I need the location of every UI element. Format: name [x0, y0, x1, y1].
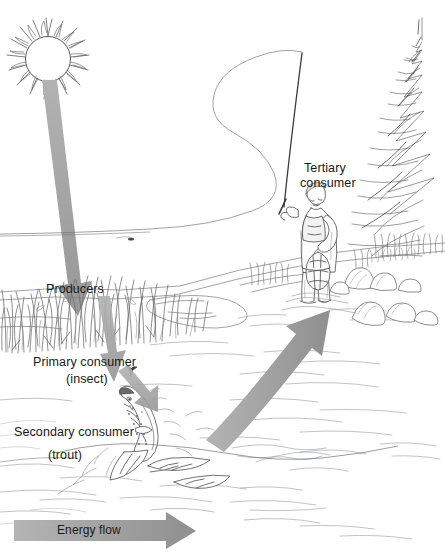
label-tertiary-consumer-line2: consumer — [300, 176, 356, 190]
label-primary-consumer: Primary consumer — [33, 355, 136, 369]
label-secondary-consumer-sub: (trout) — [48, 448, 82, 462]
fisherman-icon — [281, 183, 337, 304]
sun-to-producers-arrow — [42, 80, 92, 316]
fishing-rod-icon — [279, 53, 302, 214]
label-secondary-consumer: Secondary consumer — [14, 425, 134, 439]
rocks-icon — [330, 268, 438, 326]
ecology-food-chain-illustration: Producers Primary consumer (insect) Seco… — [0, 0, 445, 557]
label-producers: Producers — [46, 282, 104, 296]
pine-tree-icon — [348, 18, 434, 262]
label-energy-flow: Energy flow — [57, 523, 121, 537]
label-tertiary-consumer-line1: Tertiary — [304, 161, 346, 175]
trout-to-angler-arrow — [206, 310, 330, 452]
label-primary-consumer-sub: (insect) — [66, 372, 108, 386]
fishing-line-icon — [0, 50, 302, 240]
illustration-canvas — [0, 0, 445, 557]
